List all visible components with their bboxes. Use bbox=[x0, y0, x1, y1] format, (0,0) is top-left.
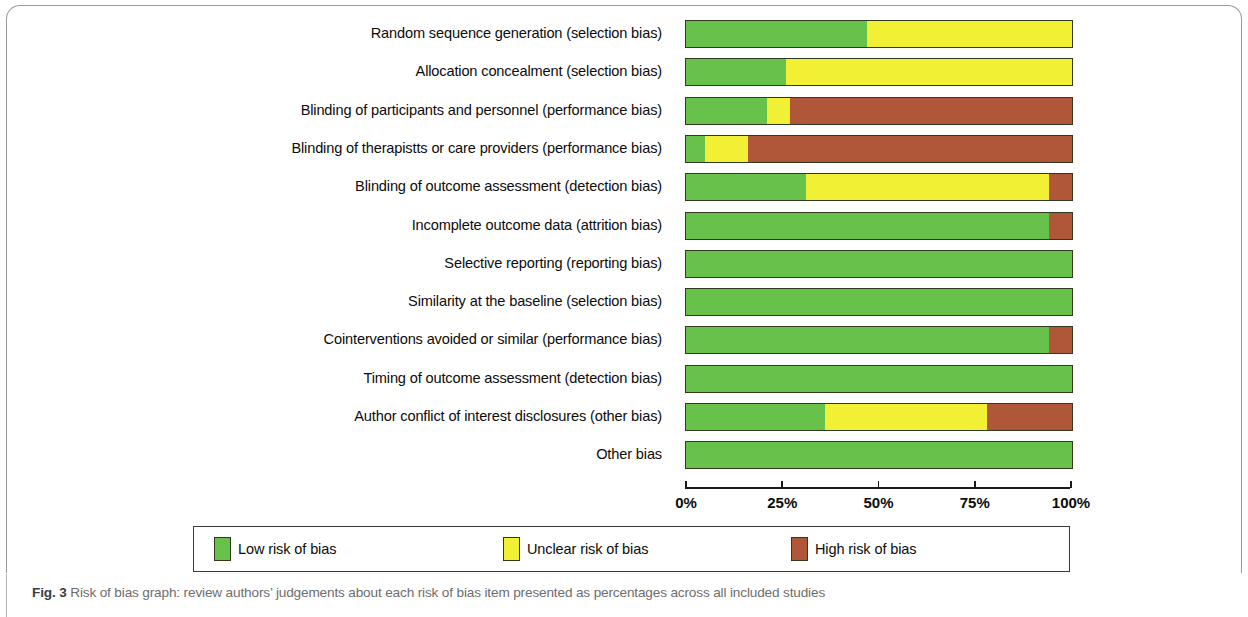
legend-swatch-high bbox=[791, 537, 808, 561]
category-label: Blinding of participants and personnel (… bbox=[0, 103, 662, 118]
bar-segment-unclear bbox=[705, 136, 747, 162]
stacked-bar bbox=[685, 173, 1073, 201]
legend-swatch-unclear bbox=[503, 537, 520, 561]
bar-segment-low bbox=[686, 327, 1049, 353]
stacked-bar bbox=[685, 403, 1073, 431]
bar-segment-low bbox=[686, 366, 1072, 392]
axis-tick-label: 0% bbox=[675, 494, 697, 511]
bar-segment-high bbox=[748, 136, 1072, 162]
legend-item-unclear: Unclear risk of bias bbox=[503, 537, 648, 561]
axis-tick bbox=[1070, 481, 1072, 488]
category-label: Selective reporting (reporting bias) bbox=[0, 256, 662, 271]
bar-segment-low bbox=[686, 174, 806, 200]
bar-segment-unclear bbox=[767, 98, 790, 124]
category-label: Other bias bbox=[0, 447, 662, 462]
category-label: Blinding of therapistts or care provider… bbox=[0, 141, 662, 156]
category-label: Random sequence generation (selection bi… bbox=[0, 26, 662, 41]
bar-segment-low bbox=[686, 59, 786, 85]
bar-segment-high bbox=[1049, 327, 1072, 353]
axis-tick-label: 50% bbox=[863, 494, 893, 511]
bar-segment-low bbox=[686, 98, 767, 124]
bar-segment-low bbox=[686, 21, 867, 47]
legend-label: Unclear risk of bias bbox=[527, 541, 648, 557]
stacked-bar bbox=[685, 20, 1073, 48]
axis-tick-label: 75% bbox=[960, 494, 990, 511]
axis-tick bbox=[974, 481, 976, 488]
stacked-bar bbox=[685, 441, 1073, 469]
axis-tick bbox=[781, 481, 783, 488]
stacked-bar bbox=[685, 58, 1073, 86]
bar-segment-low bbox=[686, 136, 705, 162]
category-label: Author conflict of interest disclosures … bbox=[0, 409, 662, 424]
figure-caption-text: Risk of bias graph: review authors’ judg… bbox=[70, 585, 825, 600]
bar-segment-low bbox=[686, 289, 1072, 315]
figure-caption: Fig. 3 Risk of bias graph: review author… bbox=[32, 585, 1232, 600]
axis-tick bbox=[685, 481, 687, 488]
axis-tick-label: 100% bbox=[1052, 494, 1090, 511]
legend-label: High risk of bias bbox=[815, 541, 916, 557]
stacked-bar bbox=[685, 135, 1073, 163]
category-label: Similarity at the baseline (selection bi… bbox=[0, 294, 662, 309]
category-label: Blinding of outcome assessment (detectio… bbox=[0, 179, 662, 194]
stacked-bar bbox=[685, 250, 1073, 278]
stacked-bar bbox=[685, 212, 1073, 240]
category-label: Incomplete outcome data (attrition bias) bbox=[0, 218, 662, 233]
bar-segment-unclear bbox=[806, 174, 1049, 200]
bar-segment-high bbox=[1049, 213, 1072, 239]
axis-tick bbox=[878, 481, 880, 488]
legend-item-high: High risk of bias bbox=[791, 537, 916, 561]
chart-legend: Low risk of biasUnclear risk of biasHigh… bbox=[193, 526, 1070, 572]
bar-segment-low bbox=[686, 442, 1072, 468]
stacked-bar bbox=[685, 288, 1073, 316]
caption-rule bbox=[6, 574, 7, 617]
stacked-bar bbox=[685, 326, 1073, 354]
bar-segment-unclear bbox=[867, 21, 1072, 47]
bar-segment-unclear bbox=[825, 404, 987, 430]
stacked-bar bbox=[685, 97, 1073, 125]
bar-segment-high bbox=[987, 404, 1072, 430]
bar-segment-high bbox=[790, 98, 1072, 124]
category-label: Cointerventions avoided or similar (perf… bbox=[0, 332, 662, 347]
figure-number: Fig. 3 bbox=[32, 585, 67, 600]
category-label: Timing of outcome assessment (detection … bbox=[0, 371, 662, 386]
axis-tick-label: 25% bbox=[767, 494, 797, 511]
legend-swatch-low bbox=[214, 537, 231, 561]
bar-segment-low bbox=[686, 404, 825, 430]
bar-segment-unclear bbox=[786, 59, 1072, 85]
risk-of-bias-chart: Random sequence generation (selection bi… bbox=[0, 0, 1248, 617]
legend-item-low: Low risk of bias bbox=[214, 537, 336, 561]
category-label: Allocation concealment (selection bias) bbox=[0, 64, 662, 79]
bar-segment-low bbox=[686, 251, 1072, 277]
bar-segment-low bbox=[686, 213, 1049, 239]
legend-label: Low risk of bias bbox=[238, 541, 336, 557]
stacked-bar bbox=[685, 365, 1073, 393]
bar-segment-high bbox=[1049, 174, 1072, 200]
